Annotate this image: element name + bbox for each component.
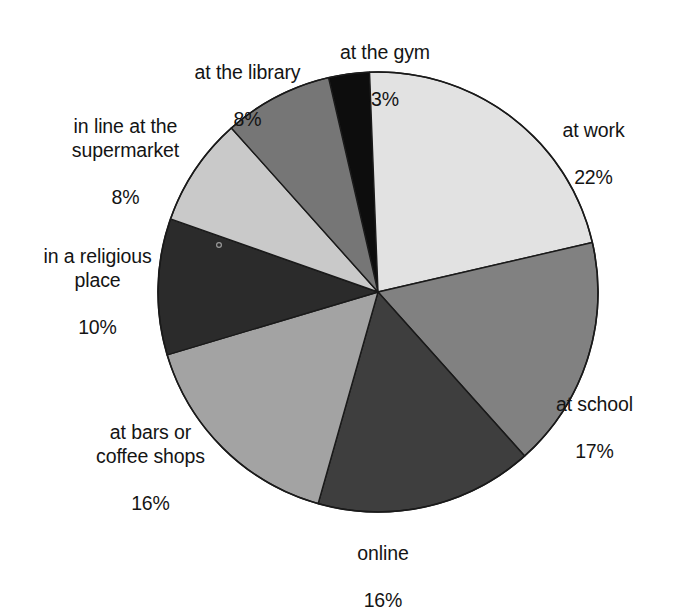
pie-label-at-work: at work 22% <box>506 96 681 213</box>
pie-label-percent: 10% <box>5 316 190 339</box>
pie-label-percent: 22% <box>506 166 681 189</box>
pie-label-name: at school <box>512 393 677 416</box>
pie-label-percent: 16% <box>43 492 258 515</box>
pie-label-percent: 16% <box>298 589 468 611</box>
pie-label-at-school: at school 17% <box>512 370 677 487</box>
pie-label-name: in a religious place <box>5 245 190 292</box>
pie-label-in-a-religious-place: in a religious place 10% <box>5 222 190 362</box>
pie-label-at-bars-or-coffee-shops: at bars or coffee shops 16% <box>43 398 258 538</box>
pie-label-online: online 16% <box>298 519 468 611</box>
pie-label-name: at bars or coffee shops <box>43 421 258 468</box>
pie-label-name: at work <box>506 119 681 142</box>
pie-label-percent: 8% <box>155 108 340 131</box>
pie-label-at-the-library: at the library 8% <box>155 38 340 155</box>
pie-label-name: at the library <box>155 61 340 84</box>
pie-label-percent: 8% <box>28 186 223 209</box>
pie-label-name: online <box>298 542 468 565</box>
pie-label-percent: 17% <box>512 440 677 463</box>
